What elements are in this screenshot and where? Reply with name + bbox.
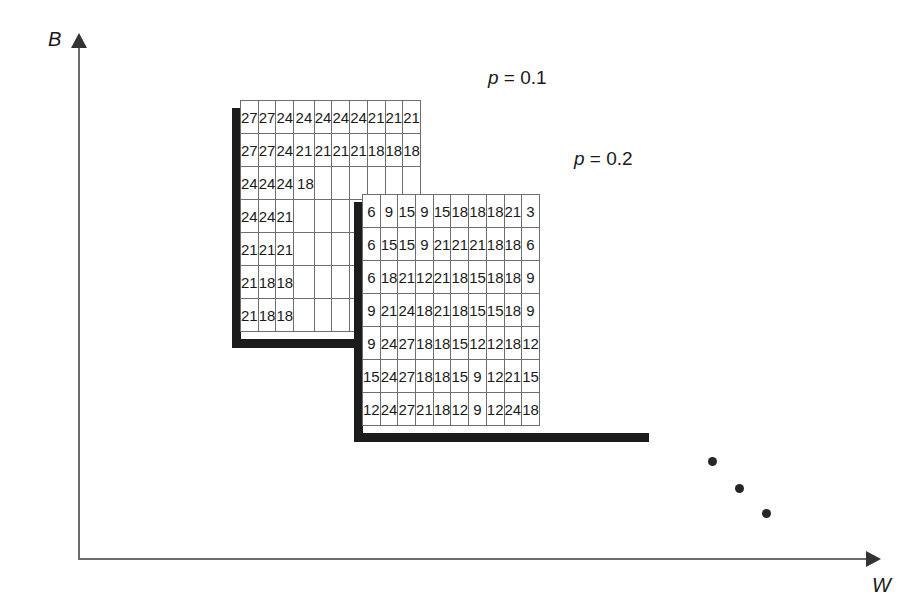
matrix-cell: 24: [258, 167, 276, 200]
annotation-p-0-1: p = 0.1: [488, 67, 547, 89]
matrix-cell: 9: [363, 327, 381, 360]
matrix-cell: 18: [522, 393, 540, 426]
matrix-cell: 21: [504, 360, 522, 393]
matrix-cell: 15: [451, 327, 469, 360]
matrix-cell: 12: [486, 393, 504, 426]
matrix-cell: 21: [350, 134, 368, 167]
matrix-cell: 27: [398, 360, 416, 393]
matrix-cell: 21: [469, 228, 487, 261]
p-symbol: p: [574, 148, 585, 169]
matrix-cell: 21: [433, 261, 451, 294]
matrix-cell: 21: [314, 134, 332, 167]
matrix-cell: 27: [398, 393, 416, 426]
matrix-cell: 24: [241, 167, 259, 200]
matrix-cell: 9: [416, 195, 434, 228]
matrix-cell: 12: [363, 393, 381, 426]
matrix-cell: 21: [416, 393, 434, 426]
matrix-cell: 24: [294, 101, 315, 134]
p-symbol: p: [488, 67, 499, 88]
matrix-cell: 24: [314, 101, 332, 134]
y-axis-arrow-icon: [71, 33, 87, 48]
matrix-cell: 18: [385, 134, 403, 167]
matrix-row: 1524271818159122115: [363, 360, 540, 393]
matrix-cell: 18: [276, 299, 294, 332]
matrix-cell: 18: [486, 195, 504, 228]
matrix-cell: 15: [469, 294, 487, 327]
matrix-cell: 21: [385, 101, 403, 134]
matrix-cell: 27: [258, 101, 276, 134]
ellipsis-dot: [762, 509, 771, 518]
matrix-cell: 12: [486, 360, 504, 393]
matrix-cell: 18: [258, 266, 276, 299]
matrix-cell: 15: [380, 228, 398, 261]
matrix-cell: 18: [504, 228, 522, 261]
matrix-cell: 24: [380, 360, 398, 393]
matrix-cell: 18: [504, 327, 522, 360]
matrix-cell: 24: [258, 200, 276, 233]
matrix-cell: 18: [504, 261, 522, 294]
matrix-cell: 12: [486, 327, 504, 360]
matrix-cell: 21: [258, 233, 276, 266]
matrix-cell: 24: [380, 393, 398, 426]
matrix-cell: 15: [363, 360, 381, 393]
matrix-cell: 18: [380, 261, 398, 294]
x-axis-line: [78, 558, 868, 560]
matrix-cell: 18: [469, 195, 487, 228]
matrix-cell: 27: [241, 134, 259, 167]
matrix-cell: 9: [380, 195, 398, 228]
p-value: = 0.2: [590, 148, 633, 169]
matrix-cell: 15: [469, 261, 487, 294]
matrix-cell: 21: [294, 134, 315, 167]
matrix-cell: 24: [332, 101, 350, 134]
matrix-shadow-bottom: [232, 339, 364, 348]
matrix-cell: 18: [433, 393, 451, 426]
matrix-cell: 9: [522, 294, 540, 327]
matrix-body: 6915915181818213615159212121181866182112…: [363, 195, 540, 426]
matrix-cell: 15: [522, 360, 540, 393]
matrix-cell: 18: [276, 266, 294, 299]
matrix-cell: 18: [451, 195, 469, 228]
y-axis-line: [78, 48, 80, 560]
matrix-cell: 18: [258, 299, 276, 332]
matrix-cell: 21: [276, 200, 294, 233]
x-axis-label: W: [872, 574, 891, 597]
matrix-cell: 18: [416, 327, 434, 360]
matrix-cell: 21: [367, 101, 385, 134]
matrix-cell: 21: [380, 294, 398, 327]
matrix-cell: 9: [469, 360, 487, 393]
x-axis-arrow-icon: [866, 551, 881, 567]
matrix-row: 921241821181515189: [363, 294, 540, 327]
matrix-cell: 12: [416, 261, 434, 294]
matrix-cell: 18: [486, 228, 504, 261]
matrix-cell: 6: [522, 228, 540, 261]
matrix-shadow-bottom: [354, 433, 649, 442]
ellipsis-dot: [708, 457, 717, 466]
matrix-cell: 12: [522, 327, 540, 360]
matrix-cell: 18: [451, 294, 469, 327]
matrix-cell: 15: [486, 294, 504, 327]
matrix-cell: 24: [276, 134, 294, 167]
matrix-shadow-left: [232, 108, 241, 348]
matrix-cell: 24: [504, 393, 522, 426]
matrix-cell: 21: [332, 134, 350, 167]
matrix-cell: 18: [486, 261, 504, 294]
matrix-cell: 27: [241, 101, 259, 134]
matrix-cell: 27: [258, 134, 276, 167]
matrix-cell: 27: [398, 327, 416, 360]
matrix-cell: 24: [276, 167, 294, 200]
matrix-cell: 6: [363, 228, 381, 261]
matrix-row: 27272424242424212121: [241, 101, 421, 134]
matrix-cell: 9: [469, 393, 487, 426]
y-axis-label: B: [48, 28, 61, 51]
matrix-cell: 21: [451, 228, 469, 261]
matrix-cell: 12: [469, 327, 487, 360]
matrix-row: 1224272118129122418: [363, 393, 540, 426]
matrix-table-p-0-2: 6915915181818213615159212121181866182112…: [362, 194, 540, 426]
matrix-row: 61515921212118186: [363, 228, 540, 261]
matrix-cell: 15: [398, 228, 416, 261]
matrix-cell: 21: [241, 266, 259, 299]
matrix-cell: 9: [416, 228, 434, 261]
matrix-cell: 24: [380, 327, 398, 360]
matrix-cell: 15: [433, 195, 451, 228]
matrix-cell: 24: [398, 294, 416, 327]
